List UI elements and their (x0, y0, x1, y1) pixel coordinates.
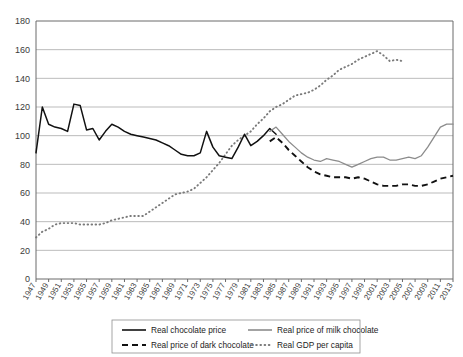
y-tick-label-160: 160 (15, 45, 30, 55)
legend-label-3: Real GDP per capita (277, 340, 353, 350)
y-tick-label-100: 100 (15, 131, 30, 141)
chart-container: 020406080100120140160180 194719491951195… (0, 0, 463, 357)
y-tick-label-40: 40 (20, 217, 30, 227)
line-chart: 020406080100120140160180 194719491951195… (0, 0, 463, 357)
y-tick-label-20: 20 (20, 246, 30, 256)
legend: Real chocolate price Real price of milk … (112, 320, 379, 353)
legend-label-0: Real chocolate price (151, 325, 227, 335)
plot-frame (36, 21, 453, 279)
y-axis-ticks: 020406080100120140160180 (15, 16, 30, 284)
y-tick-label-180: 180 (15, 16, 30, 26)
y-tick-label-60: 60 (20, 188, 30, 198)
legend-label-2: Real price of dark chocolate (151, 340, 254, 350)
x-axis-ticks: 1947194919511953195519571959196119631965… (21, 279, 455, 301)
series-line-real-price-of-dark-chocolate (270, 137, 453, 186)
data-series-group (36, 51, 453, 237)
y-tick-label-140: 140 (15, 74, 30, 84)
series-line-real-price-of-milk-chocolate (270, 124, 453, 167)
series-line-real-gdp-per-capita (36, 51, 402, 237)
gridlines (36, 50, 453, 251)
series-line-real-chocolate-price (36, 104, 276, 158)
legend-label-1: Real price of milk chocolate (277, 325, 379, 335)
y-tick-label-80: 80 (20, 160, 30, 170)
y-tick-label-120: 120 (15, 102, 30, 112)
x-tick-label-2013: 2013 (438, 281, 455, 301)
